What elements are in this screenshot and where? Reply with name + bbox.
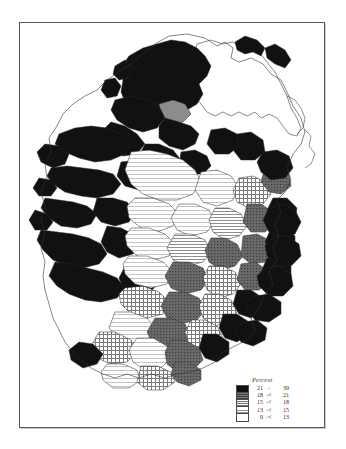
legend-high-3: 15	[275, 407, 289, 414]
legend-label-column: 21 - 39 18 -< 21 15 -< 18 13 -< 15	[251, 385, 297, 423]
legend-high-0: 39	[275, 385, 289, 392]
legend-row-3: 13 -< 15	[251, 407, 297, 414]
figure-canvas: Percent 21 - 39 18 -< 21	[0, 0, 346, 449]
legend-sep-0: -	[263, 385, 275, 392]
legend-sep-2: -<	[263, 399, 275, 406]
legend-high-1: 21	[275, 392, 289, 399]
legend-low-3: 13	[251, 407, 263, 414]
legend-high-4: 13	[275, 414, 289, 421]
legend-swatch-1	[237, 393, 248, 400]
legend-swatch-3	[237, 407, 248, 414]
legend-row-1: 18 -< 21	[251, 392, 297, 399]
legend-sep-3: -<	[263, 407, 275, 414]
legend-title: Percent	[252, 376, 272, 383]
legend-row-0: 21 - 39	[251, 385, 297, 392]
legend-swatch-2	[237, 400, 248, 407]
legend-low-4: 0	[251, 414, 263, 421]
map-polygons	[29, 34, 315, 390]
legend-high-2: 18	[275, 399, 289, 406]
legend-low-2: 15	[251, 399, 263, 406]
legend-sep-4: -<	[263, 414, 275, 421]
legend-low-0: 21	[251, 385, 263, 392]
legend-row-4: 0 -< 13	[251, 414, 297, 421]
legend-swatch-4	[237, 414, 248, 421]
legend-sep-1: -<	[263, 392, 275, 399]
map-viewport	[19, 22, 325, 428]
map-legend: Percent 21 - 39 18 -< 21	[233, 376, 295, 428]
legend-swatch-0	[237, 386, 248, 393]
ireland-choropleth-svg	[19, 22, 325, 428]
legend-swatch-column	[236, 385, 249, 422]
legend-row-2: 15 -< 18	[251, 399, 297, 406]
legend-low-1: 18	[251, 392, 263, 399]
